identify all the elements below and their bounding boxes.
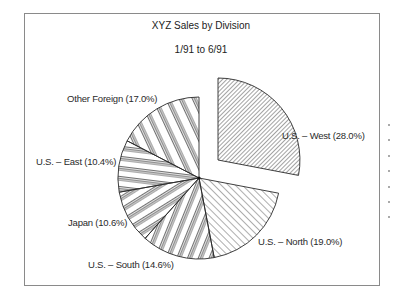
label-us-west: U.S. – West (28.0%) bbox=[282, 130, 365, 141]
label-us-east: U.S. – East (10.4%) bbox=[36, 156, 116, 167]
scan-artifact bbox=[388, 155, 390, 157]
pie-center-dot bbox=[197, 176, 200, 179]
scan-artifact bbox=[388, 186, 390, 188]
label-us-north: U.S. – North (19.0%) bbox=[258, 236, 342, 247]
chart-title: XYZ Sales by Division bbox=[152, 20, 250, 31]
scan-artifact bbox=[388, 201, 390, 203]
scan-artifact bbox=[388, 139, 390, 141]
chart-subtitle: 1/91 to 6/91 bbox=[175, 44, 228, 55]
label-us-south: U.S. – South (14.6%) bbox=[88, 259, 174, 270]
slice-us-west bbox=[218, 78, 300, 175]
scan-artifact bbox=[388, 170, 390, 172]
scan-artifact bbox=[388, 216, 390, 218]
label-other-foreign: Other Foreign (17.0%) bbox=[67, 93, 157, 104]
scan-artifact bbox=[388, 124, 390, 126]
label-japan: Japan (10.6%) bbox=[68, 217, 127, 228]
